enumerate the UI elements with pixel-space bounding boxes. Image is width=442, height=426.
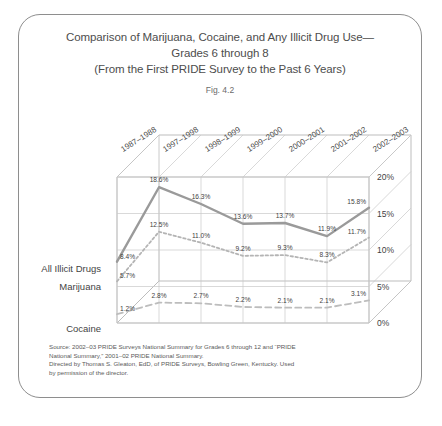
- source-line-3: Directed by Thomas S. Gleaton, EdD, of P…: [49, 360, 399, 369]
- x-axis-label-2: 1998–1999: [203, 125, 242, 154]
- series-label-cocaine: Cocaine: [19, 323, 101, 334]
- title-line-1: Comparison of Marijuana, Cocaine, and An…: [19, 29, 421, 45]
- series-label-marijuana: Marijuana: [19, 281, 101, 292]
- data-label-0-2: 16.3%: [192, 193, 211, 200]
- series-label-all-illicit-drugs: All Illicit Drugs: [19, 263, 101, 274]
- data-label-2-4: 2.1%: [277, 297, 292, 304]
- source-line-2: National Summary,” 2001–02 PRIDE Nationa…: [49, 352, 399, 361]
- data-label-1-2: 11.0%: [192, 232, 210, 239]
- y-axis-tick-5: 5%: [377, 282, 390, 292]
- x-axis-label-4: 2000–2001: [287, 125, 326, 154]
- figure-card: Comparison of Marijuana, Cocaine, and An…: [18, 14, 422, 398]
- y-axis-tick-15: 15%: [377, 209, 394, 219]
- data-label-2-6: 3.1%: [351, 290, 366, 297]
- data-label-2-3: 2.2%: [235, 296, 250, 303]
- data-label-1-4: 9.3%: [277, 244, 292, 251]
- data-label-0-3: 13.6%: [234, 213, 253, 220]
- data-label-1-3: 9.2%: [235, 245, 250, 252]
- data-label-1-5: 8.3%: [319, 251, 334, 258]
- data-label-1-0: 5.7%: [120, 272, 135, 279]
- y-axis-tick-20: 20%: [377, 172, 394, 182]
- source-note: Source: 2002–03 PRIDE Surveys National S…: [49, 343, 399, 377]
- data-label-2-0: 1.2%: [120, 305, 135, 312]
- y-axis-tick-0: 0%: [377, 318, 390, 328]
- data-label-1-1: 12.5%: [150, 221, 169, 228]
- data-label-0-5: 11.9%: [318, 225, 336, 232]
- chart-plot-area: 0%5%10%15%20%1987–19881997–19981998–1999…: [19, 111, 423, 341]
- data-label-0-4: 13.7%: [276, 212, 295, 219]
- x-axis-label-6: 2002–2003: [371, 125, 410, 154]
- source-line-4: by permission of the director.: [49, 369, 399, 378]
- data-label-0-6: 15.8%: [347, 198, 366, 205]
- x-axis-label-0: 1987–1988: [119, 125, 158, 154]
- data-label-2-2: 2.7%: [193, 292, 208, 299]
- title-line-2: Grades 6 through 8: [19, 45, 421, 61]
- y-axis-tick-10: 10%: [377, 245, 394, 255]
- data-label-2-5: 2.1%: [319, 297, 334, 304]
- data-label-2-1: 2.8%: [151, 292, 166, 299]
- data-label-1-6: 11.7%: [348, 228, 366, 235]
- source-line-1: Source: 2002–03 PRIDE Surveys National S…: [49, 343, 399, 352]
- data-label-0-0: 8.4%: [120, 253, 135, 260]
- title-line-3: (From the First PRIDE Survey to the Past…: [19, 61, 421, 77]
- line-chart-svg: 0%5%10%15%20%1987–19881997–19981998–1999…: [19, 111, 423, 341]
- x-axis-label-1: 1997–1998: [161, 125, 200, 154]
- x-axis-label-5: 2001–2002: [329, 125, 368, 154]
- figure-number: Fig. 4.2: [19, 82, 421, 98]
- data-label-0-1: 18.6%: [150, 176, 169, 183]
- x-axis-label-3: 1999–2000: [245, 125, 284, 154]
- figure-title-block: Comparison of Marijuana, Cocaine, and An…: [19, 29, 421, 98]
